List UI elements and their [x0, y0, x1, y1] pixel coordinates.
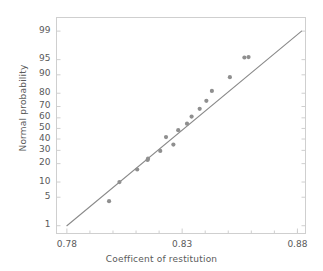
y-tick-label: 1 — [17, 219, 51, 229]
data-point — [164, 135, 168, 139]
data-point — [176, 128, 180, 132]
data-point — [210, 89, 214, 93]
x-tick-label: 0.83 — [162, 239, 202, 249]
y-tick-marks — [57, 31, 306, 226]
reference-line — [67, 31, 302, 226]
y-axis-title: Normal probability — [18, 38, 28, 178]
data-point — [204, 99, 208, 103]
data-point — [246, 55, 250, 59]
data-point — [198, 107, 202, 111]
x-tick-label: 0.88 — [277, 239, 317, 249]
data-point — [158, 149, 162, 153]
x-tick-label: 0.78 — [47, 239, 87, 249]
data-point — [117, 180, 121, 184]
data-point — [242, 55, 246, 59]
data-point — [228, 75, 232, 79]
data-points — [107, 55, 251, 203]
data-point — [185, 122, 189, 126]
x-tick-marks — [67, 229, 298, 234]
y-tick-label: 99 — [17, 25, 51, 35]
data-point — [107, 199, 111, 203]
data-point — [190, 114, 194, 118]
normal-probability-plot: 151020304050607080909599 0.780.830.88 No… — [0, 0, 323, 271]
x-axis-title: Coefficent of restitution — [0, 254, 323, 264]
data-point — [135, 167, 139, 171]
data-point — [171, 142, 175, 146]
axes-frame — [57, 18, 306, 234]
data-point — [146, 157, 150, 161]
y-tick-label: 5 — [17, 191, 51, 201]
